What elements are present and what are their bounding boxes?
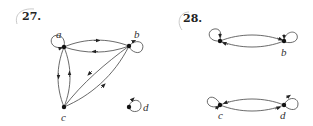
node-label-27-b: b: [134, 28, 140, 40]
node-label-28-c: c: [218, 109, 223, 121]
node-28-b: [282, 39, 286, 43]
node-28-c: [218, 103, 222, 107]
diagram-canvas: 27. 28. a b c d b c d: [0, 0, 313, 126]
edge-27-a-b: [64, 40, 129, 47]
edge-28-b-a: [220, 41, 284, 47]
node-28-d: [282, 103, 286, 107]
node-label-28-b: b: [281, 46, 287, 58]
node-28-a: [218, 39, 222, 43]
node-27-d: [127, 105, 131, 109]
edge-28-d-d-loop: [284, 99, 298, 110]
node-27-c: [62, 105, 66, 109]
problem-number-27: 27.: [22, 10, 41, 23]
node-label-27-c: c: [61, 111, 66, 123]
node-label-27-a: a: [56, 28, 62, 40]
node-label-27-d: d: [143, 101, 149, 113]
edge-28-c-d: [220, 105, 284, 111]
edge-28-a-b: [220, 35, 284, 41]
node-27-b: [127, 44, 131, 48]
graph-drawings: [0, 0, 313, 126]
edge-27-c-b: [64, 46, 129, 107]
nodes-28: [218, 39, 286, 107]
edge-27-b-b-loop: [129, 42, 143, 53]
node-27-a: [62, 45, 66, 49]
nodes-27: [62, 44, 131, 109]
edge-27-b-c: [64, 46, 129, 107]
problem-number-28: 28.: [183, 12, 202, 25]
node-label-28-d: d: [280, 109, 286, 121]
edge-28-d-c: [220, 99, 284, 105]
